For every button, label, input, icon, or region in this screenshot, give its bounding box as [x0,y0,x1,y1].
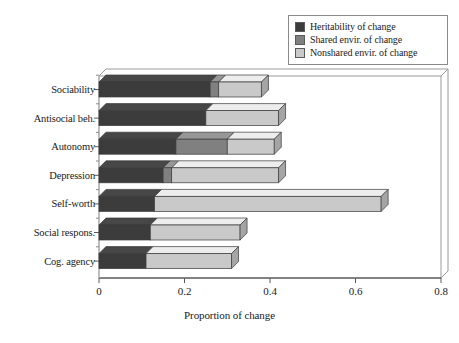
legend-label-shared-envir: Shared envir. of change [310,34,402,45]
x-tick-label: 0.8 [424,285,458,297]
legend-label-nonshared-envir: Nonshared envir. of change [310,47,417,58]
category-axis-labels: Cog. agencySocial respons.Self-worthDepr… [0,0,95,343]
bar-group [99,75,268,97]
legend-item: Shared envir. of change [295,33,442,46]
bar-group [99,161,286,183]
category-label: Autonomy [3,141,95,152]
x-tick-label: 0.2 [168,285,202,297]
legend-item: Heritability of change [295,20,442,33]
x-tick-label: 0.4 [253,285,287,297]
stacked-bar-chart: Cog. agencySocial respons.Self-worthDepr… [0,0,459,343]
x-tick-label: 0 [82,285,116,297]
legend-swatch-nonshared-envir [295,48,305,58]
category-label: Cog. agency [3,256,95,267]
legend-swatch-shared-envir [295,35,305,45]
bar-group [99,104,286,126]
legend-item: Nonshared envir. of change [295,46,442,59]
category-label: Depression [3,170,95,181]
legend: Heritability of change Shared envir. of … [288,15,448,65]
legend-label-heritability: Heritability of change [310,21,396,32]
category-label: Self-worth [3,198,95,209]
bar-group [99,132,281,154]
category-label: Sociability [3,84,95,95]
bar-group [99,247,239,269]
bar-group [99,189,388,211]
bar-group [99,218,247,240]
x-tick-label: 0.6 [339,285,373,297]
legend-swatch-heritability [295,22,305,32]
category-label: Social respons. [3,227,95,238]
x-axis-title: Proportion of change [0,309,459,321]
category-label: Antisocial beh. [3,113,95,124]
